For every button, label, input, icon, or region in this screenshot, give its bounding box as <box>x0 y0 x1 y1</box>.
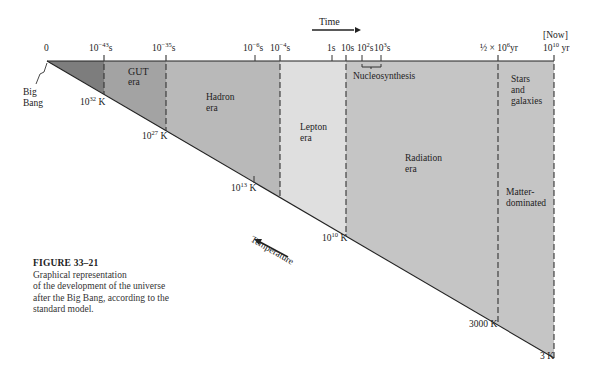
time-arrow-icon <box>312 27 361 33</box>
era-label-radiation: Radiation era <box>405 153 442 175</box>
temp-label-1e10k: 1010 K <box>322 233 347 244</box>
caption-line: of the development of the universe <box>33 281 233 293</box>
temp-label-3000k: 3000 K <box>469 319 497 330</box>
figure-caption: FIGURE 33–21 Graphical representation of… <box>33 258 233 316</box>
temp-label-1e13k: 1013 K <box>231 183 256 194</box>
big-bang-label: Big Bang <box>23 87 43 109</box>
time-ticks <box>255 55 381 61</box>
caption-line: standard model. <box>33 304 233 316</box>
era-label-lepton: Lepton era <box>300 122 327 144</box>
era-label-matter-dominated: Matter- dominated <box>506 187 546 209</box>
region-hadron <box>166 61 280 197</box>
tick-label-1e10yr: 1010 yr <box>543 43 569 54</box>
temp-label-1e27k: 1027 K <box>142 131 167 142</box>
tick-label-half-million-yr: ½ × 106yr <box>480 43 518 54</box>
nucleosynthesis-label: Nucleosynthesis <box>353 71 415 82</box>
now-label: [Now] <box>543 30 568 41</box>
era-label-gut: GUT era <box>128 66 149 88</box>
big-bang-pointer <box>36 63 47 84</box>
tick-label-1e-35s: 10−35s <box>152 43 175 54</box>
tick-label-1e-4s: 10−4s <box>270 43 290 54</box>
caption-line: Graphical representation <box>33 270 233 282</box>
tick-label-1e2s: 102s <box>357 43 373 54</box>
tick-label-0: 0 <box>44 43 49 54</box>
tick-label-1e-43s: 10−43s <box>89 43 112 54</box>
region-radiation <box>346 61 498 325</box>
tick-label-1e-6s: 10−6s <box>243 43 263 54</box>
tick-label-1s: 1s <box>327 43 335 54</box>
era-label-stars-galaxies: Stars and galaxies <box>511 74 542 107</box>
temp-label-1e32k: 1032 K <box>80 97 105 108</box>
figure-number: FIGURE 33–21 <box>33 258 233 270</box>
temp-label-3k: 3 K <box>540 351 554 362</box>
region-lepton <box>280 61 346 236</box>
era-label-hadron: Hadron era <box>206 92 235 114</box>
tick-label-10s: 10s <box>341 43 354 54</box>
tick-label-1e3s: 103s <box>374 43 390 54</box>
caption-line: after the Big Bang, according to the <box>33 293 233 305</box>
time-axis-title: Time <box>319 16 340 27</box>
